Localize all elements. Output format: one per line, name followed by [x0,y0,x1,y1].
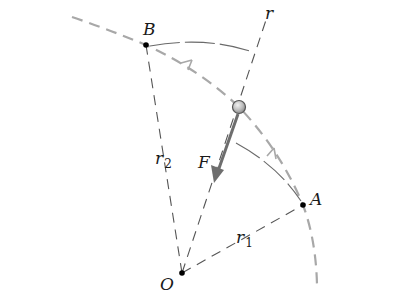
point-O [179,270,185,276]
diagram-canvas: B A O r r2 r1 F [0,0,406,303]
radius-r-line [182,14,268,273]
label-r1-base: r [236,227,244,247]
point-B [143,42,149,48]
label-r1-sub: 1 [245,236,253,250]
label-O-text: O [160,274,174,294]
label-A-text: A [310,189,322,209]
label-r2-sub: 2 [164,157,172,171]
label-r-text: r [265,3,273,23]
trajectory-arrow-lower-icon [267,148,276,159]
force-arrow-shaft [217,114,238,174]
trajectory-path [72,17,317,285]
label-r2-base: r [155,148,163,168]
label-B: B [143,21,156,38]
arc-r1 [236,143,301,201]
label-B-text: B [143,19,156,39]
label-r: r [265,5,273,22]
force-arrowhead-icon [211,165,224,183]
label-O: O [160,276,174,293]
label-F: F [198,154,210,171]
point-A [300,202,306,208]
label-F-text: F [198,152,210,172]
label-r2: r2 [155,150,172,167]
label-r1: r1 [236,229,253,246]
particle [233,101,246,114]
label-A: A [310,191,322,208]
arc-r2 [150,42,253,52]
